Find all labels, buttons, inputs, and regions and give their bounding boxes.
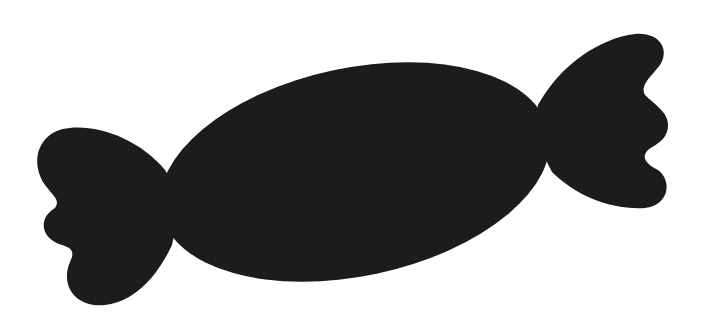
candy-canvas: [0, 0, 705, 330]
candy-body: [140, 29, 571, 315]
candy-silhouette-icon: [0, 0, 705, 330]
candy-wrapper-left: [37, 128, 176, 306]
candy-wrapper-right: [537, 34, 668, 208]
candy-shape: [37, 29, 668, 315]
